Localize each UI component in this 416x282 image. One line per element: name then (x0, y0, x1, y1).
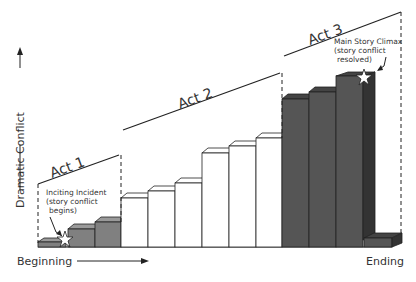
act1-bars (38, 217, 121, 247)
climax-line-2: (story conflict (334, 46, 386, 55)
inciting-line-2: (story conflict (46, 197, 98, 206)
x-axis-start-label: Beginning (17, 255, 72, 268)
story-structure-diagram: Act 1 Act 2 Act 3 Inciting Incident (sto… (0, 0, 416, 282)
climax-line-3: resolved) (337, 55, 372, 64)
climax-annotation: Main Story Climax (story conflict resolv… (334, 37, 403, 71)
climax-line-1: Main Story Climax (334, 37, 403, 46)
act1-label: Act 1 (48, 154, 87, 181)
diagram-canvas: Act 1 Act 2 Act 3 Inciting Incident (sto… (0, 0, 416, 282)
act2-label: Act 2 (176, 85, 215, 112)
act3-bars (282, 72, 402, 247)
x-axis-end-label: Ending (366, 255, 404, 268)
act2-bars (121, 133, 282, 247)
inciting-line-1: Inciting Incident (46, 188, 106, 197)
x-axis-arrow-right-icon (141, 258, 149, 264)
inciting-line-3: begins) (49, 206, 77, 215)
y-axis-arrow-up-icon (17, 47, 23, 55)
